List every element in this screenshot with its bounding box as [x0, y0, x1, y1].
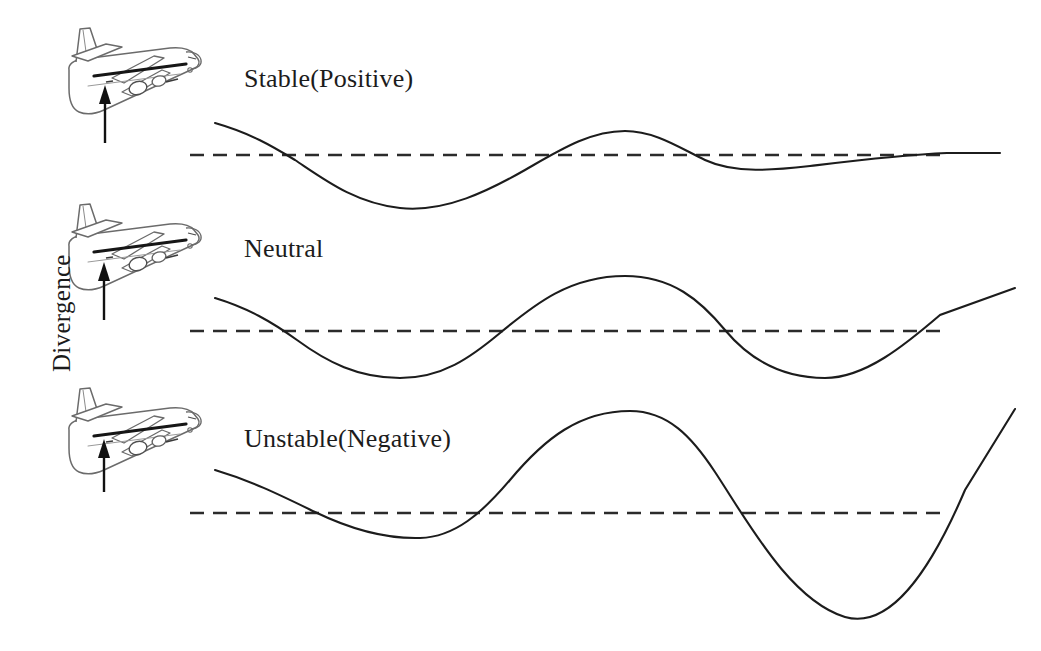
row-unstable: [69, 388, 1015, 619]
y-axis-label: Divergence: [48, 254, 76, 372]
diagram-canvas: [0, 0, 1041, 651]
row-label-stable: Stable(Positive): [244, 64, 413, 94]
aircraft-icon-stable: [69, 28, 201, 114]
row-label-unstable: Unstable(Negative): [244, 424, 451, 454]
row-neutral: [69, 204, 1015, 378]
row-stable: [69, 28, 1000, 209]
curve-stable: [215, 123, 1000, 209]
aircraft-icon-neutral: [69, 204, 201, 290]
aircraft-icon-unstable: [69, 388, 201, 474]
stability-diagram: Divergence Stable(Positive) Neutral Unst…: [0, 0, 1041, 651]
row-label-neutral: Neutral: [244, 234, 323, 264]
curve-neutral: [215, 276, 1015, 378]
